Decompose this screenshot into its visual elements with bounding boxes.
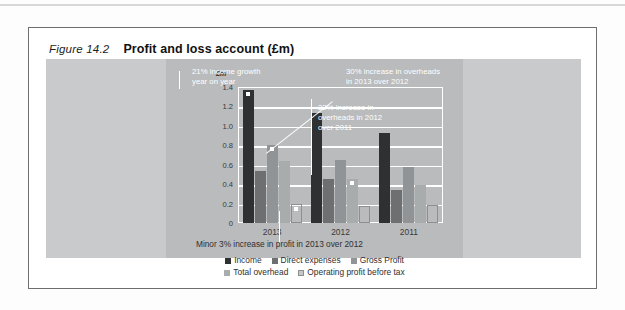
legend-swatch-direct-expenses [272,258,278,264]
bar-income-2011 [379,133,390,223]
legend-label: Total overhead [233,267,288,277]
figure-box: Figure 14.2Profit and loss account (£m) … [28,27,597,289]
y-axis-tick-label: 1.0 [222,121,233,130]
legend-item-gross-profit: Gross Profit [351,254,404,266]
annotation-overheads-2012: 22% increase in overheads in 2012 over 2… [318,103,382,134]
annotation-overheads-2013: 30% increase in overheads in 2013 over 2… [346,67,440,87]
bar-direct-expenses-2013 [255,171,266,223]
legend-row-2: Total overheadOperating profit before ta… [166,266,463,278]
legend-item-income: Income [225,254,261,266]
legend-swatch-operating-profit [298,270,304,276]
legend-item-direct-expenses: Direct expenses [272,254,341,266]
bar-direct-expenses-2012 [323,179,334,223]
legend-label: Direct expenses [281,255,341,265]
legend-label: Operating profit before tax [307,267,404,277]
legend-swatch-income [225,258,231,264]
y-axis-tick-label: 1.2 [222,102,233,111]
bar-gross-profit-2013 [267,145,278,223]
bar-gross-profit-2012 [335,160,346,223]
bar-group-2011 [375,87,443,223]
chart-legend: IncomeDirect expensesGross Profit Total … [166,254,463,278]
bar-gross-profit-2011 [403,167,414,223]
leader-line-income [179,71,180,89]
bar-operating-profit-2013 [291,204,302,223]
bar-income-2013 [243,90,254,223]
legend-item-total-overhead: Total overhead [224,266,288,278]
page-top-rule [0,4,625,6]
bar-direct-expenses-2011 [391,190,402,223]
legend-swatch-gross-profit [351,258,357,264]
figure-header: Figure 14.2Profit and loss account (£m) [49,39,294,57]
bar-total-overhead-2012 [347,179,358,223]
x-axis-label-2012: 2012 [331,227,350,237]
chart-canvas: £m 00.20.40.60.81.01.21.4 201320122011 2… [166,59,463,258]
figure-page: Figure 14.2Profit and loss account (£m) … [0,0,625,310]
bar-operating-profit-2011 [427,205,438,223]
bar-total-overhead-2011 [415,185,426,223]
figure-number: Figure 14.2 [49,43,109,55]
callout-marker [246,92,250,96]
figure-plate: £m 00.20.40.60.81.01.21.4 201320122011 2… [46,59,581,258]
legend-label: Income [234,255,261,265]
legend-row-1: IncomeDirect expensesGross Profit [166,254,463,266]
y-axis-tick-label: 0.4 [222,180,233,189]
figure-title: Profit and loss account (£m) [123,42,294,56]
y-axis-tick-label: 0.2 [222,199,233,208]
callout-marker [350,181,354,185]
x-axis-label-2011: 2011 [400,227,418,237]
legend-label: Gross Profit [360,255,404,265]
legend-swatch-total-overhead [224,270,230,276]
y-axis-tick-label: 0.6 [222,160,233,169]
bar-group-2013 [238,87,306,223]
y-axis-tick-label: 0.8 [222,141,233,150]
bar-operating-profit-2012 [359,206,370,223]
callout-marker [294,207,298,211]
annotation-income-growth: 21% income growth year on year [192,67,260,87]
leader-line-overheads-2012 [311,99,312,175]
legend-item-operating-profit: Operating profit before tax [298,266,404,278]
y-axis-tick-label: 0 [229,219,233,228]
annotation-profit-caption: Minor 3% increase in profit in 2013 over… [196,239,363,249]
